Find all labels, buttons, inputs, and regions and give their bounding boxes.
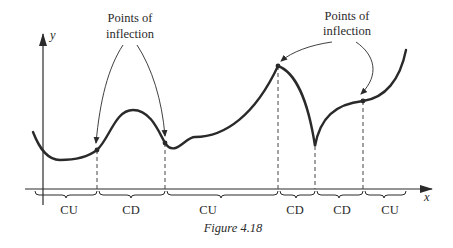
function-curve <box>33 50 406 160</box>
interval-label: CD <box>333 203 350 217</box>
interval-label: CD <box>122 203 139 217</box>
svg-text:inflection: inflection <box>323 24 372 38</box>
interval-label: CU <box>199 203 216 217</box>
svg-text:inflection: inflection <box>106 27 155 41</box>
interval-braces <box>35 191 406 198</box>
y-axis-label: y <box>48 28 56 42</box>
x-axis-label: x <box>423 190 430 204</box>
annotation-arrows <box>96 42 373 143</box>
annotation-left: Points of inflection <box>106 11 155 41</box>
svg-text:Points of: Points of <box>108 11 154 25</box>
interval-label: CU <box>381 203 398 217</box>
interval-label: CU <box>60 203 77 217</box>
interval-label: CD <box>286 203 303 217</box>
interval-labels: CU CD CU CD CD CU <box>60 203 398 217</box>
svg-text:Points of: Points of <box>325 9 371 23</box>
annotation-right: Points of inflection <box>323 9 372 38</box>
inflection-points <box>95 64 366 153</box>
figure-caption: Figure 4.18 <box>203 221 263 235</box>
concavity-diagram: y x Points of inflection Points of infle… <box>0 0 453 248</box>
